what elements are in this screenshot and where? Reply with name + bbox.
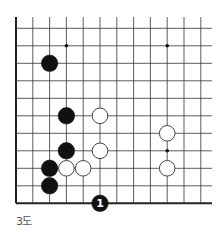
black-stone	[41, 178, 58, 195]
move-number-label: 1	[96, 197, 104, 210]
stone-disc	[159, 126, 175, 142]
stone-disc	[92, 108, 108, 124]
stone-disc	[41, 55, 58, 72]
white-stone	[92, 108, 108, 124]
star-point	[165, 149, 169, 153]
white-stone	[75, 161, 91, 177]
black-stone	[41, 55, 58, 72]
stone-disc	[92, 143, 108, 159]
star-point	[165, 44, 169, 48]
stone-disc	[58, 108, 75, 125]
diagram-caption: 3도	[16, 212, 32, 228]
black-stone: 1	[92, 195, 109, 212]
white-stone	[59, 161, 75, 177]
stone-disc	[159, 161, 175, 177]
white-stone	[92, 143, 108, 159]
stone-disc	[59, 161, 75, 177]
star-point	[65, 44, 69, 48]
stone-disc	[41, 160, 58, 177]
black-stone	[58, 143, 75, 160]
stone-disc	[75, 161, 91, 177]
white-stone	[159, 126, 175, 142]
stone-disc	[58, 143, 75, 160]
go-board: 1	[0, 0, 224, 231]
black-stone	[58, 108, 75, 125]
stone-disc	[41, 178, 58, 195]
white-stone	[159, 161, 175, 177]
black-stone	[41, 160, 58, 177]
